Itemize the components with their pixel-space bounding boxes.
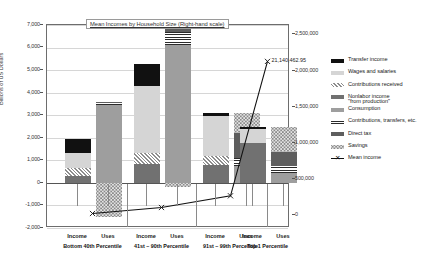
legend-item[interactable]: ✕Mean income: [331, 155, 416, 164]
legend-swatch-savings-swatch: [331, 145, 344, 149]
x-axis-group-label: Top 1 Percentile: [228, 243, 308, 249]
chart-legend: Transfer incomeWages and salariesContrib…: [331, 57, 416, 168]
legend-label: Savings: [348, 143, 368, 149]
x-axis-tick: [146, 184, 147, 206]
legend-item[interactable]: Nonlabor income "from production": [331, 94, 416, 103]
mean-income-annotation: 21,140,462.95: [272, 57, 306, 63]
legend-swatch-consumption-swatch: [331, 108, 344, 112]
legend-swatch-contributions-transfers-swatch: [331, 120, 344, 124]
legend-item[interactable]: Wages and salaries: [331, 69, 416, 78]
x-axis-tick: [215, 184, 216, 206]
legend-item[interactable]: Transfer income: [331, 57, 416, 66]
legend-label: Nonlabor income "from production": [348, 94, 390, 105]
legend-label: Direct tax: [348, 131, 371, 137]
x-axis-tick: [246, 184, 247, 206]
x-axis-category-label: Uses: [258, 233, 308, 239]
legend-label: Wages and salaries: [348, 69, 396, 75]
x-axis-group-label: 41st – 90th Percentile: [122, 243, 202, 249]
x-axis-tick: [252, 184, 253, 206]
legend-item[interactable]: Direct tax: [331, 131, 416, 140]
x-axis-tick: [177, 184, 178, 206]
x-axis-group-separator: [127, 184, 128, 227]
legend-label: Mean income: [348, 155, 381, 161]
legend-swatch-contributions-received-swatch: [331, 83, 344, 87]
legend-label: Contributions received: [348, 82, 403, 88]
legend-swatch-nonlabor-income-swatch: [331, 95, 344, 99]
legend-label: Transfer income: [348, 57, 387, 63]
x-axis-tick: [77, 184, 78, 206]
legend-label: Consumption: [348, 106, 380, 112]
x-axis-tick: [283, 184, 284, 206]
legend-swatch-direct-tax-swatch: [331, 132, 344, 136]
mean-income-marker-icon: ✕: [331, 155, 344, 161]
mean-income-polyline: [93, 61, 268, 213]
legend-item[interactable]: Consumption: [331, 106, 416, 115]
legend-swatch-wages-swatch: [331, 71, 344, 75]
x-axis-group-label: Bottom 40th Percentile: [53, 243, 133, 249]
x-axis-group-separator: [267, 184, 268, 227]
x-axis-group-separator: [196, 184, 197, 227]
legend-item[interactable]: Contributions received: [331, 82, 416, 91]
legend-item[interactable]: Savings: [331, 143, 416, 152]
chart-figure: Billions of US Dollars 7,0006,0005,0004,…: [0, 0, 436, 264]
legend-swatch-transfer-swatch: [331, 59, 344, 63]
legend-item[interactable]: Contributions, transfers, etc.: [331, 118, 416, 127]
x-axis-tick: [108, 184, 109, 206]
legend-label: Contributions, transfers, etc.: [348, 118, 416, 124]
